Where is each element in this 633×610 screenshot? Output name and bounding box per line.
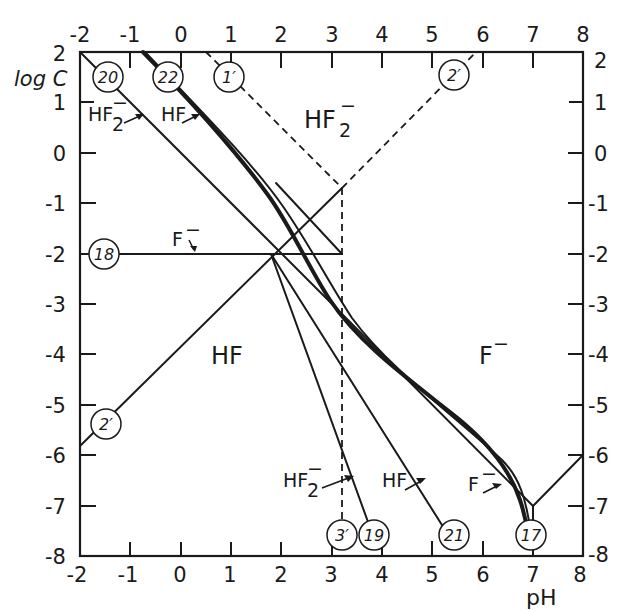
tick-label: -3 <box>588 293 609 317</box>
annotation-hf2-top: HF 2 − <box>88 91 144 135</box>
svg-text:F: F <box>468 473 479 495</box>
svg-text:HF: HF <box>283 469 308 491</box>
tick-label: -2 <box>45 243 66 267</box>
tick-label: -4 <box>588 343 609 367</box>
svg-text:−: − <box>340 94 356 116</box>
x-axis-title: pH <box>526 585 557 610</box>
svg-text:−: − <box>481 462 497 484</box>
tick-label: -5 <box>45 394 66 418</box>
circle-label-3prime: 3′ <box>327 520 357 550</box>
tick-label: -6 <box>588 444 609 468</box>
tick-label: -1 <box>588 192 609 216</box>
circle-label-2prime-left: 2′ <box>91 409 121 439</box>
svg-text:HF: HF <box>88 103 113 125</box>
tick-label: 1 <box>594 91 607 115</box>
svg-text:2′: 2′ <box>447 66 461 85</box>
svg-text:F: F <box>479 342 493 370</box>
tick-label: 7 <box>526 563 539 587</box>
annotation-f-bottom: F − <box>468 462 502 495</box>
tick-label: 5 <box>425 563 438 587</box>
line-v-right <box>533 455 583 530</box>
left-ticks <box>80 102 96 506</box>
tick-label: 6 <box>476 563 489 587</box>
right-tick-labels: 2 1 0 -1 -2 -3 -4 -5 -6 -7 -8 <box>588 49 609 567</box>
circle-label-19: 19 <box>359 520 389 550</box>
tick-label: 2 <box>274 23 287 47</box>
tick-label: -2 <box>588 243 609 267</box>
tick-label: 1 <box>224 23 237 47</box>
tick-label: 4 <box>375 563 388 587</box>
svg-text:21: 21 <box>444 526 464 545</box>
region-label-hf: HF <box>211 342 243 370</box>
tick-label: -7 <box>588 495 609 519</box>
circle-label-21: 21 <box>439 520 469 550</box>
annotation-hf2-bottom: HF 2 − <box>283 457 354 501</box>
tick-label: -2 <box>67 563 88 587</box>
chart-canvas: -2 -1 0 1 2 3 4 5 6 7 8 -2 -1 0 1 2 3 4 … <box>0 0 633 610</box>
svg-text:−: − <box>493 332 509 354</box>
tick-label: 2 <box>53 42 66 66</box>
svg-text:2: 2 <box>339 119 351 141</box>
tick-label: 1 <box>223 563 236 587</box>
tick-label: 3 <box>325 23 338 47</box>
svg-text:1′: 1′ <box>222 68 236 87</box>
region-label-f: F − <box>479 332 509 370</box>
tick-label: 8 <box>576 23 589 47</box>
tick-label: 2 <box>594 49 607 73</box>
tick-label: -7 <box>45 495 66 519</box>
top-tick-labels: -2 -1 0 1 2 3 4 5 6 7 8 <box>70 23 590 47</box>
circle-label-2prime-top: 2′ <box>439 60 469 90</box>
left-tick-labels: 2 1 0 -1 -2 -3 -4 -5 -6 -7 -8 <box>45 42 66 569</box>
svg-text:17: 17 <box>521 526 542 545</box>
svg-text:HF: HF <box>161 103 186 125</box>
tick-label: -6 <box>45 444 66 468</box>
line-2prime-solid <box>80 188 342 446</box>
right-ticks <box>568 102 583 506</box>
y-axis-title: log C <box>14 67 68 91</box>
tick-label: 0 <box>594 142 607 166</box>
tick-label: -1 <box>45 192 66 216</box>
circle-label-20: 20 <box>93 62 123 92</box>
svg-text:−: − <box>112 91 128 113</box>
tick-label: -1 <box>118 563 139 587</box>
annotation-f-mid: F − <box>172 218 201 252</box>
tick-label: 0 <box>173 563 186 587</box>
region-label-hf2: HF 2 − <box>304 94 356 141</box>
line-17 <box>145 52 530 528</box>
svg-text:F: F <box>172 228 183 250</box>
tick-label: 3 <box>324 563 337 587</box>
log-concentration-diagram: -2 -1 0 1 2 3 4 5 6 7 8 -2 -1 0 1 2 3 4 … <box>0 0 633 610</box>
tick-label: 0 <box>53 142 66 166</box>
tick-label: -8 <box>45 545 66 569</box>
tick-label: 6 <box>476 23 489 47</box>
tick-label: -3 <box>45 293 66 317</box>
line-19 <box>271 254 372 533</box>
tick-label: -4 <box>45 343 66 367</box>
arrow-icon <box>190 246 197 252</box>
svg-text:19: 19 <box>364 526 384 545</box>
svg-text:18: 18 <box>94 245 114 264</box>
tick-label: -5 <box>588 394 609 418</box>
svg-text:22: 22 <box>158 68 178 87</box>
circle-label-17: 17 <box>516 520 546 550</box>
tick-label: -8 <box>588 543 609 567</box>
tick-label: 8 <box>573 563 586 587</box>
tick-label: -1 <box>120 23 141 47</box>
tick-label: 7 <box>526 23 539 47</box>
circle-label-18: 18 <box>89 239 119 269</box>
tick-label: 2 <box>274 563 287 587</box>
svg-text:2: 2 <box>307 479 319 501</box>
svg-text:2: 2 <box>112 113 124 135</box>
circle-label-1prime: 1′ <box>214 62 244 92</box>
bottom-tick-labels: -2 -1 0 1 2 3 4 5 6 7 8 <box>67 563 587 587</box>
svg-text:2′: 2′ <box>99 415 113 434</box>
svg-text:HF: HF <box>304 106 336 134</box>
tick-label: -2 <box>70 23 91 47</box>
circle-label-22: 22 <box>153 62 183 92</box>
svg-text:HF: HF <box>382 469 407 491</box>
tick-label: 5 <box>425 23 438 47</box>
tick-label: 1 <box>53 91 66 115</box>
svg-text:−: − <box>307 457 323 479</box>
svg-text:3′: 3′ <box>335 526 349 545</box>
tick-label: 4 <box>375 23 388 47</box>
